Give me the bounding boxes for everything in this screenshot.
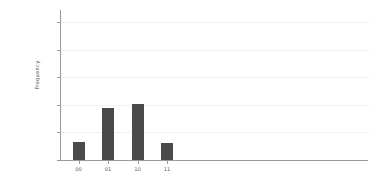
y-tick-mark [57, 105, 60, 106]
x-tick-label: 11 [152, 166, 182, 173]
x-tick-mark [167, 161, 168, 164]
y-tick-mark [57, 22, 60, 23]
y-tick-mark [57, 160, 60, 161]
x-axis-spine [60, 160, 368, 161]
x-tick-mark [79, 161, 80, 164]
y-tick-mark [57, 132, 60, 133]
bar [102, 108, 114, 160]
x-tick-label: 00 [64, 166, 94, 173]
bar [161, 143, 173, 160]
x-tick-label: 01 [93, 166, 123, 173]
bar-chart-figure: Frequency 02004006008001000 00011011 [0, 0, 387, 186]
x-tick-label: 10 [123, 166, 153, 173]
y-tick-mark [57, 50, 60, 51]
x-tick-mark [138, 161, 139, 164]
y-axis-title: Frequency [30, 0, 44, 168]
x-tick-mark [108, 161, 109, 164]
y-tick-mark [57, 77, 60, 78]
bar [132, 104, 144, 160]
bar-series [61, 11, 370, 160]
bar [73, 142, 85, 160]
